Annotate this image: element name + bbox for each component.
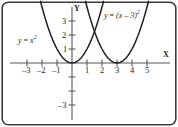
x-tick-label-4: 4 <box>130 66 134 75</box>
y-axis-label: Y <box>74 5 80 13</box>
x-tick-label-2: 2 <box>100 66 104 75</box>
curve-label-right-exponent: 2 <box>137 9 140 15</box>
x-tick-label--2: –2 <box>37 66 46 75</box>
x-tick-label--1: –1 <box>52 66 61 75</box>
x-tick-label-3: 3 <box>115 66 119 75</box>
curve-label-right: y = (x – 3)2 <box>104 10 140 20</box>
curve-label-right-eq: = <box>110 11 115 20</box>
curve-label-left-eq: = <box>24 36 29 45</box>
x-axis-label: X <box>163 51 169 59</box>
y-tick-label-3: 3 <box>62 17 66 26</box>
y-tick-label-1: 1 <box>63 45 67 54</box>
curve-label-right-lhs: y <box>104 11 108 20</box>
curve-label-left-lhs: y <box>18 36 22 45</box>
x-tick-label-1: 1 <box>85 66 89 75</box>
curve-label-left-exponent: 2 <box>34 34 37 40</box>
curve-label-left: y = x2 <box>18 35 36 45</box>
x-tick-label-5: 5 <box>145 66 149 75</box>
x-tick-label--3: –3 <box>22 66 31 75</box>
graph-figure: –3 –2 –1 1 2 3 4 5 3 2 1 –3 Y X y = x2 y… <box>0 0 178 127</box>
graph-canvas <box>0 0 178 127</box>
y-tick-label--3: –3 <box>58 101 67 110</box>
curve-label-right-base: (x – 3) <box>116 11 137 20</box>
y-tick-label-2: 2 <box>62 31 66 40</box>
